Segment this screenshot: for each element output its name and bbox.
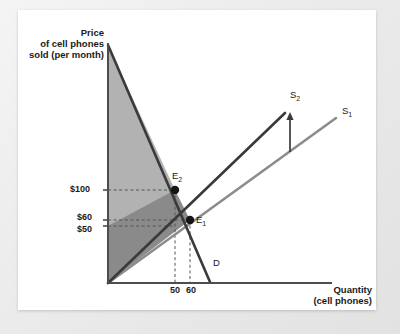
equilibrium-point-e2: [171, 186, 179, 194]
price-tick-60: $60: [77, 212, 92, 222]
supply-curve-s2-label: S2: [290, 90, 300, 103]
y-axis-title: Price of cell phones sold (per month): [8, 28, 104, 61]
supply-s2-subscript: 2: [296, 95, 300, 102]
supply-curve-s1-label: S1: [342, 106, 352, 119]
quantity-tick-60: 60: [181, 285, 201, 295]
x-axis-title-line2: (cell phones): [268, 296, 372, 307]
supply-shift-arrow: [286, 112, 293, 152]
price-tick-100: $100: [70, 184, 90, 194]
figure-root: Price of cell phones sold (per month) Qu…: [0, 0, 400, 334]
e1-subscript: 1: [202, 220, 206, 227]
demand-curve-label: D: [213, 258, 220, 269]
equilibrium-label-e2: E2: [172, 171, 182, 184]
equilibrium-point-e1: [186, 216, 194, 224]
y-axis-title-line3: sold (per month): [8, 50, 104, 61]
equilibrium-label-e1: E1: [196, 215, 206, 228]
price-tick-50: $50: [77, 224, 92, 234]
e2-subscript: 2: [178, 176, 182, 183]
x-axis-title: Quantity (cell phones): [268, 285, 372, 307]
supply-s1-subscript: 1: [348, 111, 352, 118]
